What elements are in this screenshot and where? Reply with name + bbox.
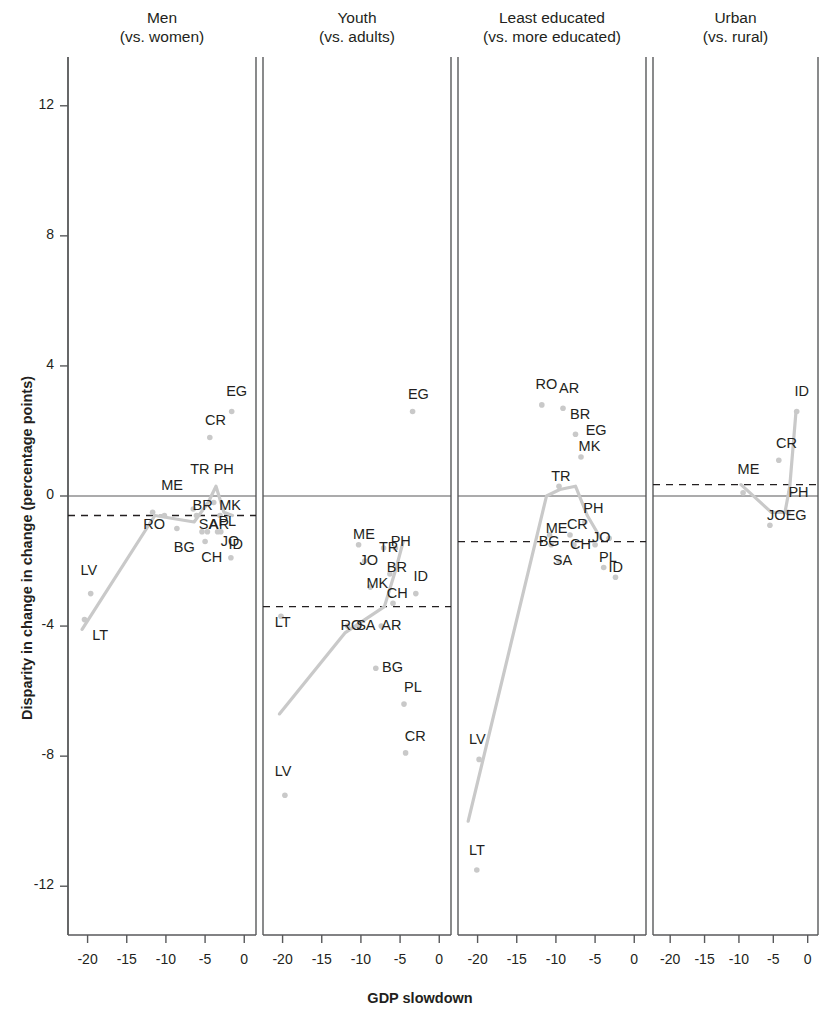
point-label-PH: PH	[788, 485, 808, 500]
point-label-LT: LT	[92, 628, 108, 643]
multi-panel-scatter-figure: 12840-4-8-12-20-15-10-50LTLVROMEBGTRBRSA…	[0, 0, 823, 1018]
data-point-BG[interactable]	[174, 526, 180, 532]
data-point-TR[interactable]	[556, 483, 562, 489]
data-point-ID[interactable]	[228, 555, 234, 561]
point-label-ME: ME	[353, 527, 375, 542]
point-label-PL: PL	[218, 514, 236, 529]
point-label-MK: MK	[219, 498, 241, 513]
x-tick-label: -15	[105, 951, 149, 967]
point-label-BR: BR	[387, 560, 407, 575]
point-label-ID: ID	[795, 384, 810, 399]
x-tick-label: -5	[573, 951, 617, 967]
data-point-LV[interactable]	[88, 591, 94, 597]
data-point-BG[interactable]	[373, 666, 379, 672]
plot-canvas	[0, 0, 823, 1018]
point-label-JO: JO	[592, 530, 611, 545]
data-point-PL[interactable]	[401, 701, 407, 707]
point-label-CR: CR	[567, 517, 588, 532]
point-label-LT: LT	[275, 615, 291, 630]
data-point-MK[interactable]	[578, 454, 584, 460]
point-label-JO: JO	[359, 553, 378, 568]
point-label-EG: EG	[226, 384, 247, 399]
point-label-PH: PH	[583, 501, 603, 516]
data-point-CH[interactable]	[390, 601, 396, 607]
data-point-EG[interactable]	[229, 409, 235, 415]
panel-title-line2: (vs. rural)	[606, 27, 823, 46]
point-label-EG: EG	[408, 387, 429, 402]
data-point-RO[interactable]	[539, 402, 545, 408]
point-label-EG: EG	[786, 508, 807, 523]
point-label-ID: ID	[413, 569, 428, 584]
data-point-CR[interactable]	[776, 457, 782, 463]
y-tick-label: -12	[34, 876, 54, 892]
point-label-MK: MK	[579, 439, 601, 454]
x-axis-title: GDP slowdown	[280, 990, 560, 1006]
point-label-CH: CH	[570, 537, 591, 552]
point-label-SA: SA	[356, 618, 375, 633]
point-label-BR: BR	[570, 407, 590, 422]
point-label-BG: BG	[539, 534, 560, 549]
panel-title-line1: Youth	[337, 9, 376, 26]
point-label-TR: TR	[551, 469, 570, 484]
y-tick-label: 8	[46, 226, 54, 242]
point-label-EG: EG	[586, 423, 607, 438]
x-tick-label: -15	[300, 951, 344, 967]
data-point-EG[interactable]	[410, 409, 416, 415]
x-tick-label: -15	[495, 951, 539, 967]
x-tick-label: -5	[183, 951, 227, 967]
point-label-CR: CR	[405, 729, 426, 744]
point-label-MK: MK	[366, 576, 388, 591]
point-label-RO: RO	[536, 377, 558, 392]
data-point-RO[interactable]	[150, 510, 156, 516]
x-tick-label: -20	[456, 951, 500, 967]
panel-title-line1: Least educated	[499, 9, 605, 26]
x-tick-label: -10	[534, 951, 578, 967]
point-label-TR: TR	[190, 462, 209, 477]
data-point-LV[interactable]	[282, 792, 288, 798]
data-point-ME[interactable]	[740, 490, 746, 496]
point-label-ME: ME	[161, 478, 183, 493]
point-label-PL: PL	[404, 680, 422, 695]
point-label-CH: CH	[387, 586, 408, 601]
data-point-JO[interactable]	[767, 523, 773, 529]
y-tick-label: -8	[42, 746, 54, 762]
point-label-BG: BG	[174, 540, 195, 555]
y-tick-label: -4	[42, 616, 54, 632]
y-tick-label: 4	[46, 356, 54, 372]
data-point-CR[interactable]	[207, 435, 213, 441]
point-label-BG: BG	[382, 660, 403, 675]
point-label-AR: AR	[559, 381, 579, 396]
data-point-BR[interactable]	[573, 431, 579, 437]
point-label-BR: BR	[193, 498, 213, 513]
panel-title-4: Urban(vs. rural)	[606, 8, 823, 46]
x-tick-label: -5	[378, 951, 422, 967]
point-label-JO: JO	[767, 508, 786, 523]
x-tick-label: -20	[261, 951, 305, 967]
y-tick-label: 12	[38, 96, 54, 112]
data-point-ME[interactable]	[356, 542, 362, 548]
data-point-AR[interactable]	[560, 405, 566, 411]
point-label-LV: LV	[469, 732, 486, 747]
data-point-CH[interactable]	[202, 539, 208, 545]
data-point-LV[interactable]	[476, 757, 482, 763]
data-point-LT[interactable]	[474, 867, 480, 873]
point-label-CH: CH	[201, 550, 222, 565]
data-point-CR[interactable]	[403, 750, 409, 756]
data-point-PL[interactable]	[601, 565, 607, 571]
point-label-LV: LV	[275, 764, 292, 779]
x-tick-label: -10	[144, 951, 188, 967]
panel-title-line1: Men	[147, 9, 177, 26]
data-point-LT[interactable]	[82, 617, 88, 623]
y-axis-title: Disparity in change in change (percentag…	[19, 376, 35, 720]
point-label-PH: PH	[391, 534, 411, 549]
point-label-LT: LT	[469, 843, 485, 858]
data-point-ID[interactable]	[613, 575, 619, 581]
point-label-RO: RO	[143, 517, 165, 532]
point-label-LV: LV	[81, 563, 98, 578]
data-point-ID[interactable]	[413, 591, 419, 597]
point-label-ID: ID	[608, 560, 623, 575]
point-label-ID: ID	[229, 537, 244, 552]
x-tick-label: 0	[786, 951, 823, 967]
x-tick-label: -10	[339, 951, 383, 967]
data-point-ID[interactable]	[794, 409, 800, 415]
